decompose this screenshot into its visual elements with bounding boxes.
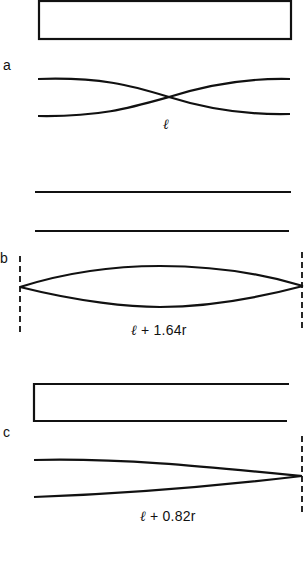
standing-wave-b-upper xyxy=(20,266,303,287)
standing-wave-c-upper xyxy=(34,460,302,476)
standing-wave-a-upper xyxy=(38,79,290,97)
length-label-b: ℓ + 1.64r xyxy=(131,322,187,339)
half-open-tube-c xyxy=(34,384,289,421)
standing-wave-a-lower xyxy=(38,97,290,116)
panel-label-a: a xyxy=(3,57,11,73)
standing-wave-c-lower xyxy=(34,476,302,497)
panel-label-b: b xyxy=(0,250,8,266)
panel-label-c: c xyxy=(3,424,10,440)
closed-tube-a xyxy=(39,1,291,39)
length-label-a: ℓ xyxy=(163,116,169,133)
length-label-c: ℓ + 0.82r xyxy=(140,508,196,525)
diagram-canvas xyxy=(0,0,304,562)
standing-wave-b-lower xyxy=(20,286,303,307)
